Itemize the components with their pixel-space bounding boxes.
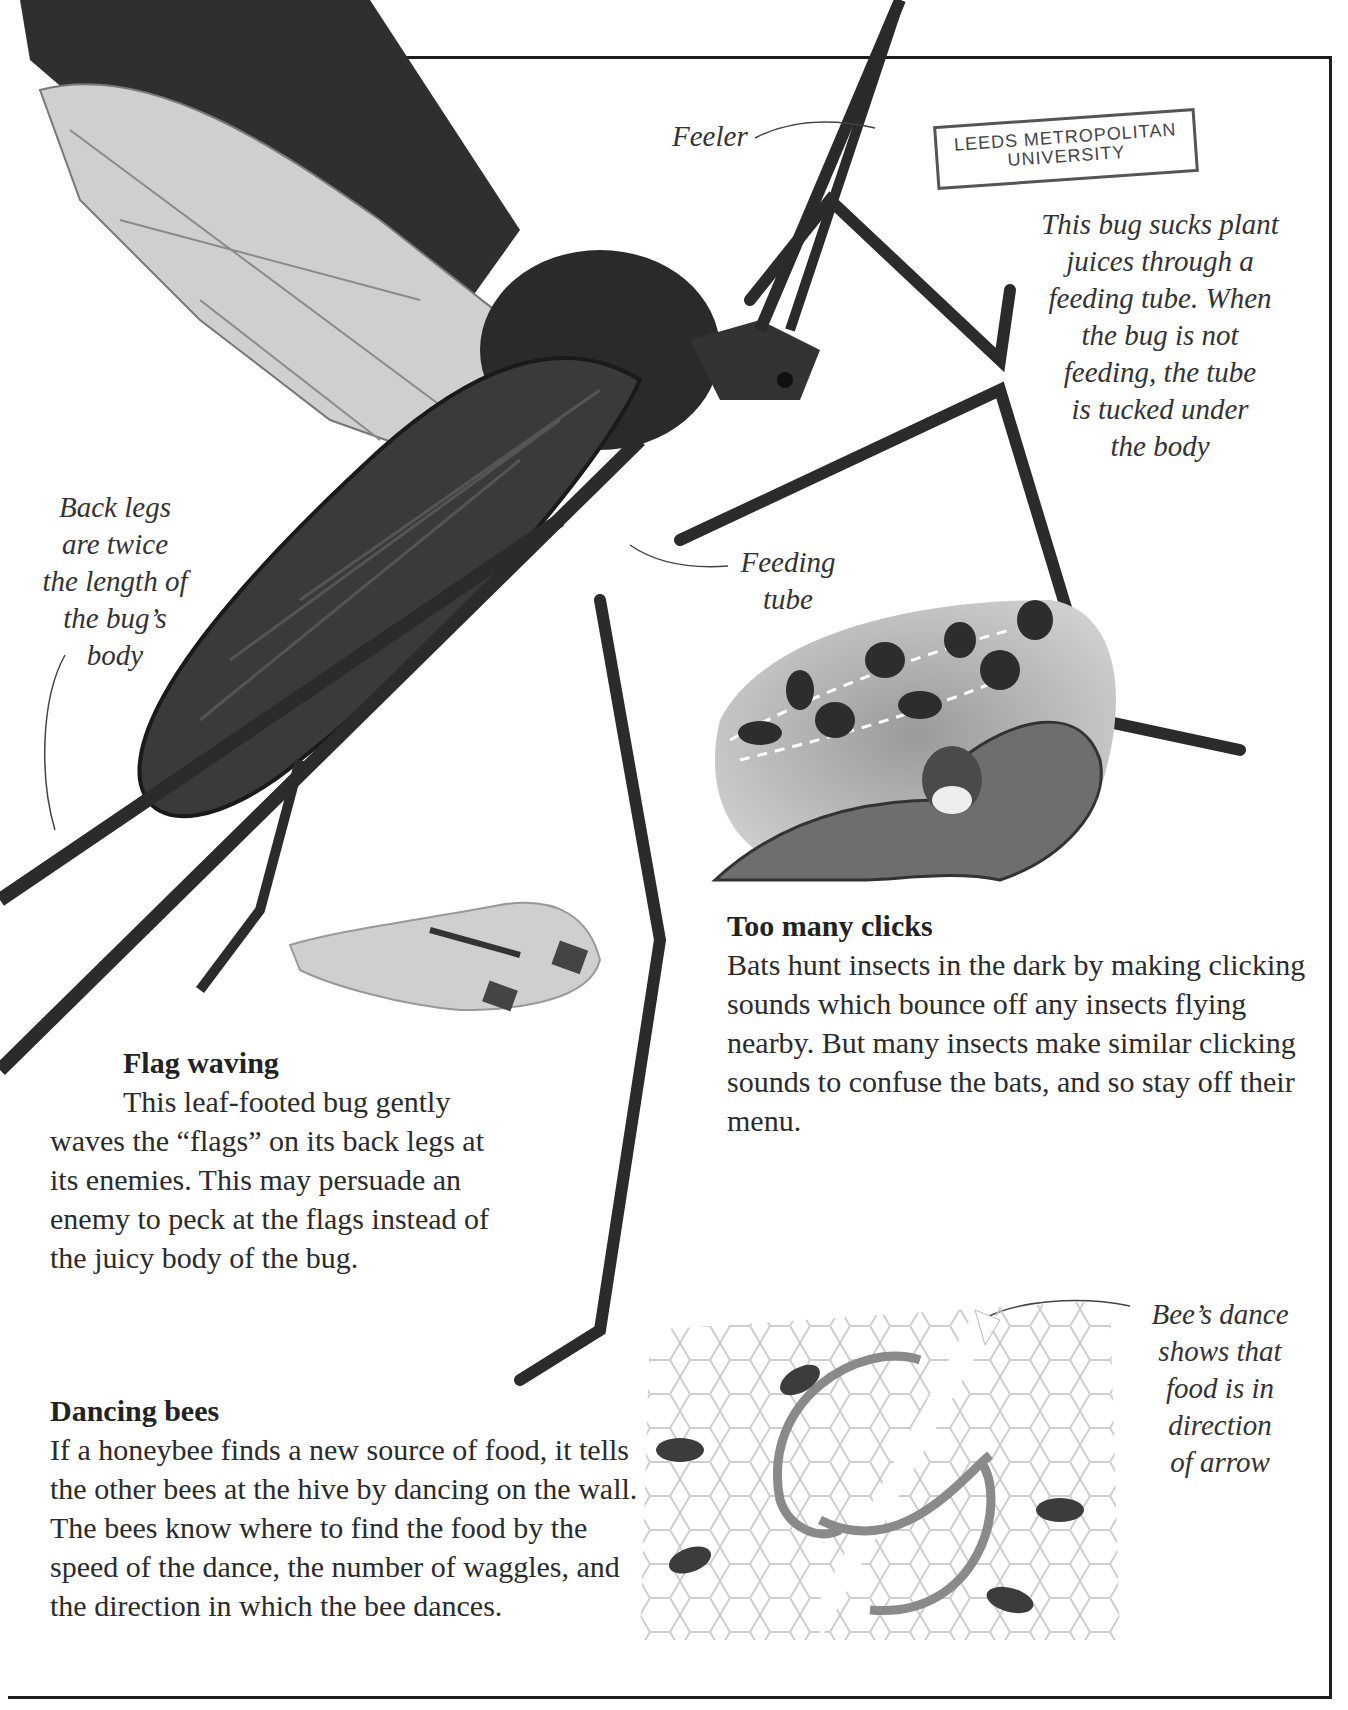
page-frame-top bbox=[262, 56, 1332, 59]
hand-with-bug-illustration bbox=[290, 903, 600, 1012]
bee-dance-illustration bbox=[640, 1300, 1120, 1640]
page-frame-right bbox=[1329, 56, 1332, 1698]
section-heading: Flag waving bbox=[50, 1044, 510, 1082]
caption-feeler: Feeler bbox=[672, 118, 748, 155]
section-heading: Dancing bees bbox=[50, 1392, 640, 1430]
bat-and-moths-illustration bbox=[715, 600, 1116, 880]
section-dancing-bees: Dancing bees If a honeybee finds a new s… bbox=[50, 1392, 640, 1625]
page-frame-bottom bbox=[8, 1696, 1332, 1699]
section-body: This leaf-footed bug gently waves the “f… bbox=[50, 1082, 510, 1277]
library-stamp: LEEDS METROPOLITAN UNIVERSITY bbox=[933, 108, 1199, 190]
caption-back-legs: Back legs are twice the length of the bu… bbox=[20, 489, 210, 674]
caption-feeding-juices: This bug sucks plant juices through a fe… bbox=[1010, 206, 1310, 465]
section-body: If a honeybee finds a new source of food… bbox=[50, 1430, 640, 1625]
section-flag-waving: Flag waving This leaf-footed bug gently … bbox=[50, 1044, 510, 1277]
caption-bee-dance: Bee’s dance shows that food is in direct… bbox=[1135, 1296, 1305, 1481]
section-too-many-clicks: Too many clicks Bats hunt insects in the… bbox=[727, 907, 1317, 1140]
section-body: Bats hunt insects in the dark by making … bbox=[727, 945, 1317, 1140]
section-heading: Too many clicks bbox=[727, 907, 1317, 945]
caption-feeding-tube: Feeding tube bbox=[728, 544, 848, 618]
